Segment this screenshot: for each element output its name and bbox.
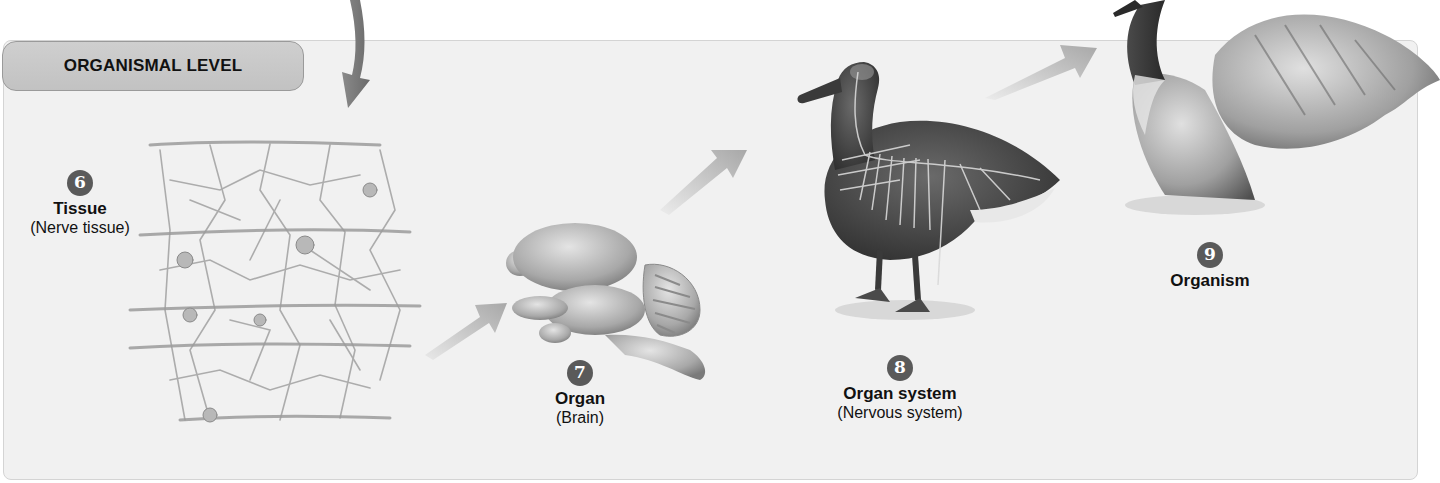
- stage-number-badge: 6: [67, 170, 93, 196]
- stage-number-badge: 9: [1197, 242, 1223, 268]
- stage-tissue-label: 6 Tissue (Nerve tissue): [0, 170, 160, 237]
- stage-title: Organ system: [810, 384, 990, 404]
- stage-organ-system-label: 8 Organ system (Nervous system): [810, 355, 990, 422]
- arrow-organ-system-to-organism-icon: [985, 40, 1100, 100]
- stage-subtitle: (Nerve tissue): [0, 219, 160, 237]
- curved-down-arrow-icon: [330, 0, 390, 110]
- goose-organism-illustration: [1105, 0, 1440, 225]
- stage-organism-label: 9 Organism: [1160, 242, 1260, 291]
- stage-number-badge: 8: [887, 355, 913, 381]
- level-label-pill: ORGANISMAL LEVEL: [2, 41, 304, 91]
- arrow-organ-to-organ-system-icon: [655, 130, 750, 215]
- stage-title: Organ: [530, 389, 630, 409]
- nerve-tissue-illustration: [130, 120, 430, 440]
- stage-organ-label: 7 Organ (Brain): [530, 360, 630, 427]
- stage-subtitle: (Nervous system): [810, 404, 990, 422]
- stage-title: Tissue: [0, 199, 160, 219]
- stage-subtitle: (Brain): [530, 409, 630, 427]
- stage-title: Organism: [1160, 271, 1260, 291]
- stage-number-badge: 7: [567, 360, 593, 386]
